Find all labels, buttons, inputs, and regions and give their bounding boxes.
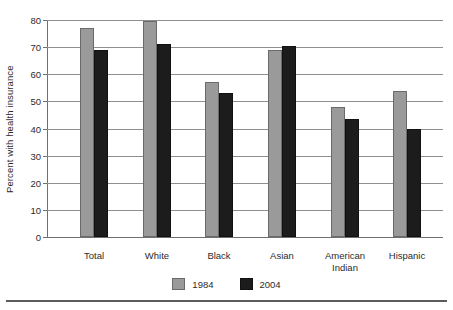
gridline-80 — [47, 20, 443, 21]
bar-asian-2004 — [282, 46, 296, 237]
bar-asian-1984 — [268, 50, 282, 237]
y-tick-label-0: 0 — [36, 232, 41, 243]
y-tick-60 — [43, 74, 47, 75]
y-tick-10 — [43, 210, 47, 211]
legend-swatch-icon — [240, 278, 253, 290]
y-tick-label-50: 50 — [30, 96, 41, 107]
plot-area: 01020304050607080 TotalWhiteBlackAsianAm… — [47, 12, 443, 245]
y-axis-title: Percent with health insurance — [2, 20, 16, 238]
y-tick-label-30: 30 — [30, 150, 41, 161]
bar-hispanic-2004 — [407, 129, 421, 238]
y-tick-label-10: 10 — [30, 204, 41, 215]
bar-black-1984 — [205, 82, 219, 237]
y-tick-50 — [43, 101, 47, 102]
legend-label: 2004 — [260, 279, 281, 290]
y-tick-20 — [43, 183, 47, 184]
bar-total-1984 — [80, 28, 94, 237]
bottom-divider — [6, 300, 447, 302]
bar-hispanic-1984 — [393, 91, 407, 237]
y-tick-label-60: 60 — [30, 69, 41, 80]
plot-inner: 01020304050607080 TotalWhiteBlackAsianAm… — [47, 12, 443, 245]
x-category-label: Total — [84, 250, 104, 262]
y-tick-label-70: 70 — [30, 42, 41, 53]
y-tick-label-20: 20 — [30, 177, 41, 188]
x-category-label: Black — [207, 250, 230, 262]
y-tick-label-40: 40 — [30, 123, 41, 134]
y-tick-label-80: 80 — [30, 15, 41, 26]
gridline-70 — [47, 47, 443, 48]
legend-item-1984[interactable]: 1984 — [172, 278, 213, 290]
bar-chart-figure: Percent with health insurance 0102030405… — [0, 0, 453, 310]
chart-legend: 19842004 — [0, 278, 453, 290]
x-category-label: Asian — [270, 250, 294, 262]
bar-white-2004 — [157, 44, 171, 237]
x-category-label: White — [145, 250, 169, 262]
y-tick-80 — [43, 20, 47, 21]
gridline-0 — [47, 237, 443, 238]
x-category-label: Hispanic — [389, 250, 425, 262]
bar-total-2004 — [94, 50, 108, 237]
bar-american-indian-2004 — [345, 119, 359, 237]
legend-item-2004[interactable]: 2004 — [240, 278, 281, 290]
bar-black-2004 — [219, 93, 233, 237]
x-category-label: American Indian — [325, 250, 365, 273]
y-tick-30 — [43, 156, 47, 157]
y-tick-40 — [43, 129, 47, 130]
bar-white-1984 — [143, 21, 157, 237]
y-tick-0 — [43, 237, 47, 238]
legend-swatch-icon — [172, 278, 185, 290]
bar-american-indian-1984 — [331, 107, 345, 237]
y-tick-70 — [43, 47, 47, 48]
legend-label: 1984 — [192, 279, 213, 290]
